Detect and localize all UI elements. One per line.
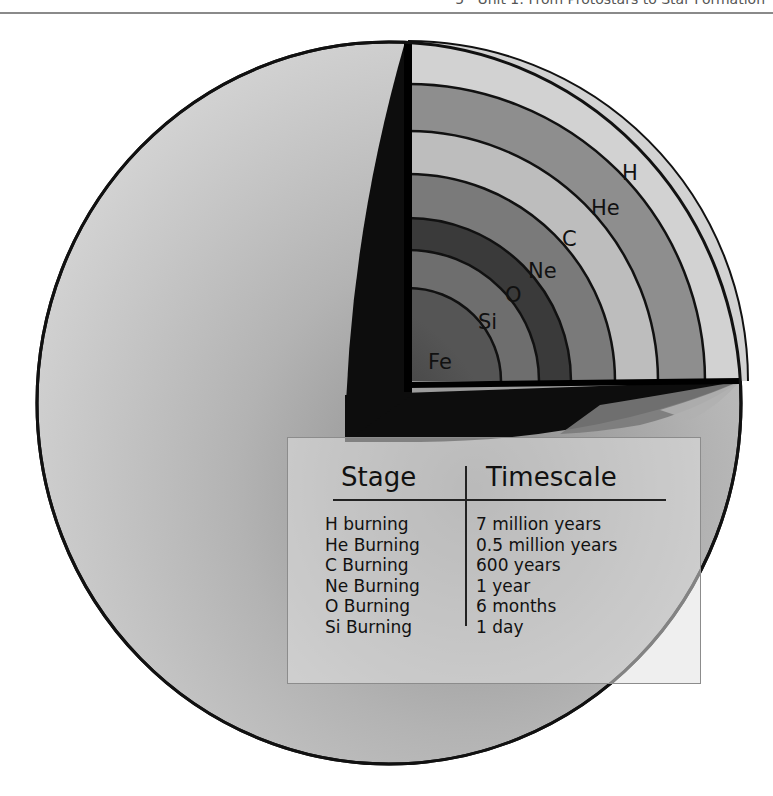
timescale-cell: 600 years — [476, 555, 561, 576]
label-ne: Ne — [528, 259, 557, 283]
table-row: Si Burning 1 day — [288, 617, 700, 638]
stage-cell: Si Burning — [325, 617, 412, 638]
header-timescale: Timescale — [486, 462, 617, 492]
timescale-cell: 6 months — [476, 596, 556, 617]
label-o: O — [505, 283, 522, 307]
cut-edge-horizontal — [408, 381, 740, 385]
table-row: H burning 7 million years — [288, 514, 700, 535]
timescale-cell: 1 year — [476, 576, 530, 597]
table-row: O Burning 6 months — [288, 596, 700, 617]
stage-cell: C Burning — [325, 555, 408, 576]
burning-stage-table: Stage Timescale H burning 7 million year… — [287, 437, 701, 684]
timescale-cell: 1 day — [476, 617, 524, 638]
label-he: He — [591, 196, 620, 220]
label-si: Si — [478, 310, 497, 334]
label-h: H — [622, 161, 638, 185]
label-fe: Fe — [428, 350, 452, 374]
header-stage: Stage — [341, 462, 416, 492]
header-divider — [333, 499, 666, 501]
table-row: He Burning 0.5 million years — [288, 535, 700, 556]
stage-cell: O Burning — [325, 596, 410, 617]
timescale-cell: 7 million years — [476, 514, 601, 535]
table-row: C Burning 600 years — [288, 555, 700, 576]
table-row: Ne Burning 1 year — [288, 576, 700, 597]
table-body: H burning 7 million years He Burning 0.5… — [288, 514, 700, 637]
stage-cell: Ne Burning — [325, 576, 420, 597]
stage-cell: H burning — [325, 514, 409, 535]
stage-cell: He Burning — [325, 535, 420, 556]
timescale-cell: 0.5 million years — [476, 535, 617, 556]
label-c: C — [562, 227, 577, 251]
